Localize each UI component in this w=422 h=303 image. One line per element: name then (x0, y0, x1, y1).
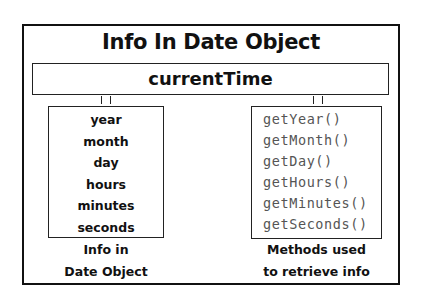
method-item: getMinutes() (263, 193, 381, 214)
method-item: getYear() (263, 109, 381, 130)
method-item: getHours() (263, 172, 381, 193)
info-field: day (49, 152, 163, 174)
info-field: hours (49, 174, 163, 196)
right-connector (313, 96, 323, 104)
object-name-label: currentTime (33, 68, 388, 89)
info-fields-list: year month day hours minutes seconds (49, 107, 163, 238)
info-caption: Info in Date Object (48, 239, 164, 283)
info-fields-box: year month day hours minutes seconds (48, 106, 164, 238)
methods-list: getYear() getMonth() getDay() getHours()… (252, 107, 381, 235)
info-field: year (49, 109, 163, 131)
methods-caption-line: Methods used (251, 239, 382, 261)
info-caption-line: Info in (48, 239, 164, 261)
date-object-frame: Info In Date Object currentTime year mon… (22, 24, 400, 285)
methods-caption-line: to retrieve info (251, 261, 382, 283)
methods-caption: Methods used to retrieve info (251, 239, 382, 283)
info-field: seconds (49, 217, 163, 239)
methods-box: getYear() getMonth() getDay() getHours()… (251, 106, 382, 239)
left-connector (101, 96, 111, 104)
method-item: getSeconds() (263, 214, 381, 235)
diagram-title: Info In Date Object (24, 30, 398, 54)
info-field: minutes (49, 195, 163, 217)
info-field: month (49, 131, 163, 153)
method-item: getMonth() (263, 130, 381, 151)
method-item: getDay() (263, 151, 381, 172)
info-caption-line: Date Object (48, 261, 164, 283)
current-time-box: currentTime (32, 63, 389, 95)
